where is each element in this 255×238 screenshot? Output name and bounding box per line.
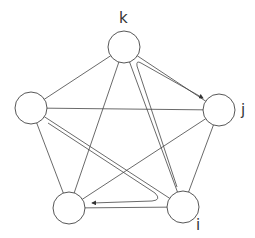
edge-j-l (31, 108, 219, 110)
nodes (15, 31, 235, 224)
node-left (15, 92, 47, 124)
edge-j-b (69, 110, 219, 208)
node-k (108, 31, 140, 63)
highlighted-paths (48, 62, 203, 203)
path-i-k-j (137, 62, 203, 187)
edge-k-b (69, 47, 124, 208)
path-l-i-b (48, 123, 158, 203)
edge-k-l (31, 47, 124, 108)
edge-i-l (31, 108, 183, 207)
label-k: k (119, 9, 128, 27)
edge-i-b (69, 207, 183, 208)
edge-k-j (124, 47, 219, 110)
edges (31, 47, 219, 208)
label-i: i (196, 216, 200, 234)
node-j (203, 94, 235, 126)
graph-diagram: k j i (0, 0, 255, 238)
edge-k-i (124, 47, 183, 207)
label-j: j (240, 101, 245, 119)
node-bottom-left (53, 192, 85, 224)
node-i (167, 191, 199, 223)
